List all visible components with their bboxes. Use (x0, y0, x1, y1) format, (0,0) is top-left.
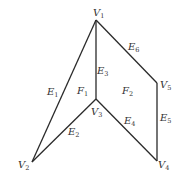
face-label-f1: F1 (76, 85, 88, 98)
edge-e2 (32, 99, 96, 162)
graph-diagram: V1V2V3V4V5E1E2E3E4E5E6F1F2 (0, 0, 179, 185)
labels: V1V2V3V4V5E1E2E3E4E5E6F1F2 (18, 7, 171, 172)
edge-e4 (96, 99, 157, 161)
edge-label-e3: E3 (96, 65, 108, 78)
vertex-label-v2: V2 (18, 159, 29, 172)
edge-label-e4: E4 (123, 115, 135, 128)
face-label-f2: F2 (121, 85, 133, 98)
vertex-label-v4: V4 (158, 159, 169, 172)
vertex-label-v5: V5 (160, 79, 171, 92)
edge-label-e1: E1 (46, 86, 58, 99)
vertex-label-v3: V3 (91, 106, 102, 119)
edge-label-e5: E5 (159, 112, 171, 125)
vertex-label-v1: V1 (93, 7, 104, 20)
edge-label-e6: E6 (127, 41, 139, 54)
edge-label-e2: E2 (67, 126, 79, 139)
